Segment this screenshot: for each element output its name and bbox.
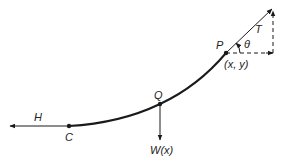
cable-diagram: H C Q W(x) P (x, y) T θ (0, 0, 281, 168)
angle-arc (236, 43, 240, 53)
point-q (158, 102, 162, 106)
label-h: H (34, 111, 42, 123)
label-t: T (255, 23, 263, 35)
label-c: C (65, 131, 73, 143)
label-xy: (x, y) (224, 58, 249, 70)
label-w: W(x) (150, 144, 174, 156)
point-p (224, 51, 228, 55)
point-c (67, 124, 71, 128)
cable-curve (69, 53, 226, 126)
label-p: P (216, 39, 224, 51)
label-theta: θ (244, 38, 250, 50)
label-q: Q (154, 89, 163, 101)
